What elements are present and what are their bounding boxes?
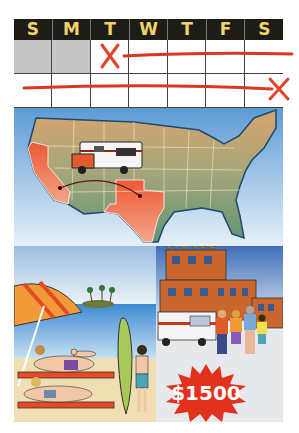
motel-panel: MOTEL $1500 xyxy=(156,246,283,422)
price-label: $1500 xyxy=(171,381,241,405)
calendar-marks xyxy=(4,19,294,108)
us-map-panel xyxy=(14,108,283,246)
beach-panel xyxy=(14,246,156,422)
x-mark-start-icon xyxy=(102,45,118,67)
motel-sign: MOTEL xyxy=(166,246,217,251)
trip-line-row1 xyxy=(124,53,292,56)
calendar: S M T W T F S xyxy=(14,19,283,108)
trip-line-row2 xyxy=(24,86,272,89)
